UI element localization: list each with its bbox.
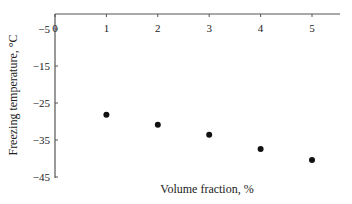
axes: 012345−5−15−25−35−45 [33,14,340,183]
data-point [309,157,315,163]
x-tick-label: 0 [52,22,58,34]
data-point [155,122,161,128]
x-tick-label: 1 [104,22,110,34]
x-tick-label: 2 [155,22,161,34]
y-tick-label: −15 [33,60,51,72]
y-tick-label: −5 [38,23,50,35]
y-tick-label: −35 [33,134,51,146]
x-tick-label: 5 [309,22,315,34]
data-point [103,112,109,118]
data-point [206,132,212,138]
x-tick-label: 3 [206,22,212,34]
data-point [258,146,264,152]
y-tick-label: −45 [33,171,51,183]
chart: 012345−5−15−25−35−45 Volume fraction, % … [0,0,352,204]
y-tick-label: −25 [33,97,51,109]
x-tick-label: 4 [258,22,264,34]
y-axis-title: Freezing temperature, °C [6,34,20,155]
x-axis-title: Volume fraction, % [160,182,253,196]
data-points [103,112,315,163]
